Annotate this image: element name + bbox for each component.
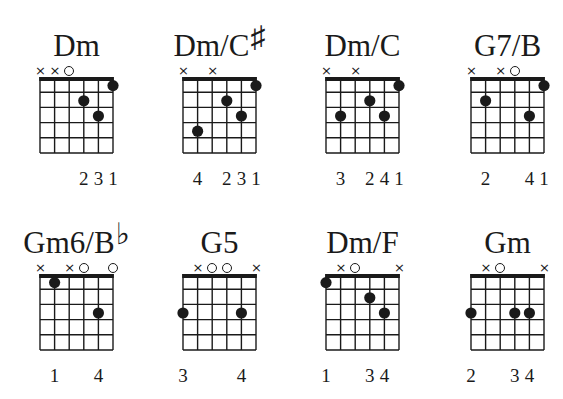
fretboard-grid <box>177 272 262 354</box>
finger-number: 2 <box>365 169 375 189</box>
fretboard-grid <box>320 272 405 354</box>
nut <box>325 77 400 81</box>
finger-number: 3 <box>237 169 247 189</box>
chord-name-root: G7/B <box>474 28 541 63</box>
chord-name: Gm <box>447 225 563 261</box>
finger-dot <box>524 110 535 121</box>
finger-number: 1 <box>108 169 118 189</box>
finger-dot <box>538 80 549 91</box>
chord-name: Dm/F <box>302 225 423 261</box>
finger-dot <box>364 95 375 106</box>
chord-name: Dm/C <box>302 28 423 64</box>
finger-dot <box>393 80 404 91</box>
finger-dot <box>335 110 346 121</box>
finger-number: 4 <box>94 366 104 386</box>
chord-name-root: Gm <box>484 225 531 260</box>
finger-dot <box>49 277 60 288</box>
finger-number: 1 <box>539 169 549 189</box>
chord-name-root: Dm/C <box>174 28 250 63</box>
chord-diagram: Gm6/B♭××14 <box>16 225 136 399</box>
finger-number: 2 <box>79 169 89 189</box>
finger-number: 3 <box>178 366 188 386</box>
chord-diagram: G7/B××241 <box>447 28 563 218</box>
chord-diagram: Dm/F××134 <box>302 225 422 399</box>
finger-number: 3 <box>336 169 346 189</box>
sharp-icon: ♯ <box>250 20 265 53</box>
chord-diagram: Dm/C××3241 <box>302 28 422 218</box>
chord-name: Gm6/B♭ <box>16 225 137 261</box>
chord-name-root: G5 <box>201 225 239 260</box>
fretboard-grid <box>320 75 405 157</box>
finger-dot <box>509 307 520 318</box>
finger-number: 4 <box>237 366 247 386</box>
finger-number: 4 <box>380 366 390 386</box>
nut <box>39 274 114 278</box>
finger-dot <box>107 80 118 91</box>
chord-name-root: Dm/C <box>325 28 401 63</box>
finger-number: 2 <box>466 366 476 386</box>
finger-number: 4 <box>380 169 390 189</box>
chord-name: Dm <box>16 28 137 64</box>
finger-dot <box>465 307 476 318</box>
finger-dot <box>177 307 188 318</box>
finger-dot <box>221 95 232 106</box>
finger-number: 1 <box>321 366 331 386</box>
fretboard-grid <box>465 272 550 354</box>
finger-dot <box>379 110 390 121</box>
fretboard-grid <box>177 75 262 157</box>
finger-dot <box>236 110 247 121</box>
fretboard-grid <box>465 75 550 157</box>
finger-number: 4 <box>525 366 535 386</box>
chord-diagram: Dm/C♯××4231 <box>159 28 279 218</box>
finger-dot <box>78 95 89 106</box>
finger-dot <box>250 80 261 91</box>
finger-dot <box>379 307 390 318</box>
finger-number: 4 <box>193 169 203 189</box>
chord-name-root: Dm <box>53 28 100 63</box>
finger-number: 1 <box>394 169 404 189</box>
chord-name: G7/B <box>447 28 563 64</box>
nut <box>182 274 257 278</box>
finger-dot <box>93 307 104 318</box>
chord-name: G5 <box>159 225 280 261</box>
fretboard-grid <box>34 272 119 354</box>
nut <box>470 274 545 278</box>
finger-number: 3 <box>510 366 520 386</box>
chord-diagram: Dm××231 <box>16 28 136 218</box>
finger-dot <box>192 126 203 137</box>
flat-icon: ♭ <box>116 217 130 250</box>
nut <box>39 77 114 81</box>
finger-dot <box>524 307 535 318</box>
finger-number: 1 <box>251 169 261 189</box>
finger-dot <box>236 307 247 318</box>
chord-diagram: G5××34 <box>159 225 279 399</box>
fretboard-grid <box>34 75 119 157</box>
finger-dot <box>480 95 491 106</box>
chord-name: Dm/C♯ <box>159 28 280 64</box>
nut <box>470 77 545 81</box>
nut <box>325 274 400 278</box>
nut <box>182 77 257 81</box>
finger-dot <box>93 110 104 121</box>
chord-name-root: Gm6/B <box>23 225 114 260</box>
finger-number: 3 <box>94 169 104 189</box>
chord-name-root: Dm/F <box>326 225 398 260</box>
finger-number: 4 <box>525 169 535 189</box>
finger-number: 2 <box>481 169 491 189</box>
finger-number: 3 <box>365 366 375 386</box>
chord-diagram: Gm××234 <box>447 225 563 399</box>
finger-number: 1 <box>50 366 60 386</box>
finger-dot <box>320 277 331 288</box>
finger-number: 2 <box>222 169 232 189</box>
finger-dot <box>364 292 375 303</box>
